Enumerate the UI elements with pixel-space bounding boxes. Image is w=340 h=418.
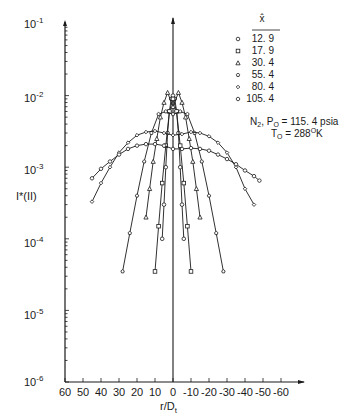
svg-text:10-3: 10-3 — [24, 162, 44, 176]
y-axis-arrow-icon — [63, 20, 67, 26]
x-tick-label: -20 — [201, 386, 217, 398]
legend-label: 17. 9 — [252, 45, 275, 56]
x-tick-label: 50 — [77, 386, 89, 398]
series-105.4 — [90, 142, 261, 182]
legend-item: 55. 4 — [236, 69, 274, 80]
x-tick-labels: 6050403020100-10-20-30-40-50-60 — [59, 386, 289, 398]
legend-title: x̂ — [260, 13, 265, 24]
x-tick-label: -60 — [273, 386, 289, 398]
svg-text:10-4: 10-4 — [24, 235, 44, 249]
x-axis-label: r/Dt — [160, 400, 178, 415]
svg-text:10-5: 10-5 — [24, 307, 44, 321]
svg-text:N2, PO = 115. 4 psia: N2, PO = 115. 4 psia — [250, 116, 339, 128]
legend-item: 80. 4 — [236, 81, 274, 92]
legend-item: 30. 4 — [236, 57, 275, 68]
y-axis-label: I*(II) — [16, 190, 37, 202]
x-tick-label: -50 — [255, 386, 271, 398]
x-tick-label: 10 — [149, 386, 161, 398]
centerline-arrow-icon — [171, 17, 175, 24]
plot-area — [90, 90, 261, 273]
x-tick-label: -10 — [183, 386, 199, 398]
x-tick-label: -30 — [219, 386, 235, 398]
x-axis-arrow-icon — [298, 380, 305, 384]
svg-text:TO = 288OK: TO = 288OK — [271, 127, 323, 140]
legend-item: 12. 9 — [236, 33, 274, 44]
legend-item: 105. 4 — [236, 93, 274, 104]
legend-item: 17. 9 — [236, 45, 274, 56]
x-tick-label: 40 — [95, 386, 107, 398]
svg-text:10-6: 10-6 — [24, 374, 44, 388]
svg-text:10-2: 10-2 — [24, 90, 44, 104]
chart: 10-1 10-2 10-3 10-4 10-5 10-6 I*(II) r/D… — [0, 0, 340, 418]
y-tick-labels: 10-1 10-2 10-3 10-4 10-5 10-6 — [24, 16, 44, 388]
legend-label: 30. 4 — [252, 57, 275, 68]
legend: x̂ 12. 917. 930. 455. 480. 4105. 4 — [236, 13, 280, 104]
legend-label: 80. 4 — [252, 81, 275, 92]
legend-label: 55. 4 — [252, 69, 275, 80]
svg-text:10-1: 10-1 — [24, 16, 44, 30]
x-tick-label: 0 — [170, 386, 176, 398]
legend-label: 105. 4 — [246, 93, 274, 104]
legend-label: 12. 9 — [252, 33, 275, 44]
x-tick-label: -40 — [237, 386, 253, 398]
conditions-annotation: N2, PO = 115. 4 psia TO = 288OK — [250, 116, 339, 140]
x-tick-label: 30 — [113, 386, 125, 398]
x-tick-label: 20 — [131, 386, 143, 398]
x-tick-label: 60 — [59, 386, 71, 398]
